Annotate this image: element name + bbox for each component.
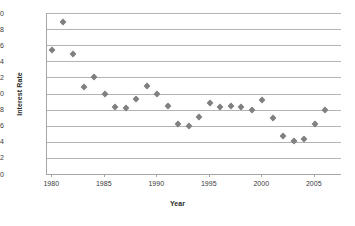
x-tick-label-1995: 1995: [189, 180, 229, 188]
data-point: [269, 115, 276, 122]
data-point: [185, 122, 192, 129]
y-tick-label-16: 16: [0, 42, 4, 49]
x-tick-label-2000: 2000: [241, 180, 281, 188]
gridline-14: [47, 61, 341, 62]
gridline-4: [47, 142, 341, 143]
y-tick-label-10: 10: [0, 90, 4, 97]
data-point: [280, 133, 287, 140]
x-axis-line: [46, 174, 340, 175]
data-point: [322, 107, 329, 114]
data-point: [248, 106, 255, 113]
data-point: [154, 90, 161, 97]
y-tick-label-0: 0: [0, 171, 4, 178]
plot-area: [46, 13, 341, 174]
gridline-8: [47, 110, 341, 111]
x-tick-1990: [156, 174, 157, 177]
gridline-6: [47, 126, 341, 127]
gridline-2: [47, 158, 341, 159]
scatter-chart: Interest Rate 02468101214161820 19801985…: [0, 0, 355, 226]
y-tick-label-8: 8: [0, 106, 4, 113]
y-axis-title: Interest Rate: [16, 72, 23, 116]
y-tick-label-14: 14: [0, 58, 4, 65]
y-tick-label-18: 18: [0, 26, 4, 33]
gridline-20: [47, 13, 341, 14]
gridline-16: [47, 45, 341, 46]
data-point: [91, 73, 98, 80]
data-point: [49, 46, 56, 53]
y-tick-label-20: 20: [0, 10, 4, 17]
x-tick-1980: [51, 174, 52, 177]
x-tick-2000: [261, 174, 262, 177]
x-tick-1985: [104, 174, 105, 177]
x-axis-title: Year: [0, 200, 355, 207]
x-tick-label-2005: 2005: [294, 180, 334, 188]
data-point: [196, 113, 203, 120]
data-point: [59, 18, 66, 25]
y-tick-label-4: 4: [0, 138, 4, 145]
data-point: [70, 51, 77, 58]
x-tick-2005: [314, 174, 315, 177]
x-tick-label-1985: 1985: [84, 180, 124, 188]
data-point: [206, 100, 213, 107]
gridline-18: [47, 29, 341, 30]
data-point: [290, 137, 297, 144]
y-tick-label-2: 2: [0, 154, 4, 161]
data-point: [259, 96, 266, 103]
x-tick-label-1980: 1980: [31, 180, 71, 188]
x-tick-label-1990: 1990: [136, 180, 176, 188]
data-point: [101, 91, 108, 98]
x-tick-1995: [209, 174, 210, 177]
gridline-10: [47, 94, 341, 95]
data-point: [80, 84, 87, 91]
data-point: [164, 102, 171, 109]
data-point: [143, 83, 150, 90]
y-tick-label-12: 12: [0, 74, 4, 81]
data-point: [133, 96, 140, 103]
y-tick-label-6: 6: [0, 122, 4, 129]
